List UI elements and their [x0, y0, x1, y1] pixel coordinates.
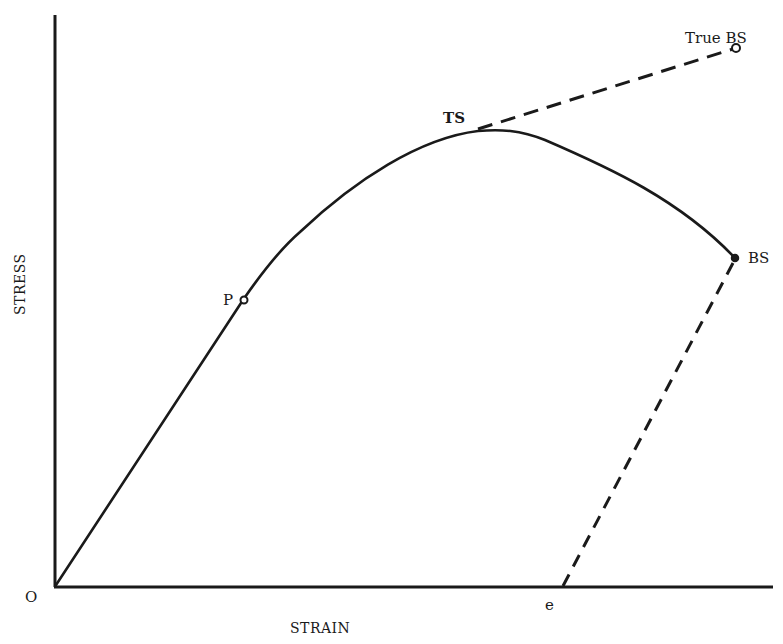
point-p-marker — [241, 297, 248, 304]
true-stress-dashed-line — [478, 49, 733, 129]
origin-label: O — [25, 590, 37, 605]
stress-strain-curve — [56, 130, 735, 585]
stress-strain-diagram — [0, 0, 783, 644]
bs-label: BS — [748, 251, 769, 266]
true-bs-label: True BS — [685, 31, 747, 46]
point-bs-marker — [732, 255, 739, 262]
unloading-dashed-line — [563, 263, 733, 586]
ts-label: TS — [443, 111, 465, 126]
x-axis-label: STRAIN — [290, 621, 350, 635]
e-label: e — [545, 598, 554, 613]
y-axis-label: STRESS — [13, 253, 27, 315]
p-label: P — [223, 293, 233, 308]
